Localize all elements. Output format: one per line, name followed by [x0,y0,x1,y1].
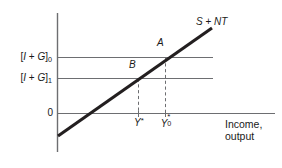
tick-superscript-ystar: * [141,116,144,125]
diagram-canvas [0,0,282,168]
curve-plus-sign: + [203,16,214,27]
tick-base-ystar: Y [134,117,141,128]
x-tick-label-ystar-0: Y*0 [155,117,177,129]
tick-base-ystar-0: Y [161,118,168,129]
plus-sign-1: + [26,72,37,83]
economics-diagram: [I + G]0 [I + G]1 0 A B S + NT Y* Y*0 In… [0,0,282,168]
curve-symbol-nt: NT [214,16,227,27]
point-label-b: B [129,59,136,70]
curve-symbol-s: S [196,16,203,27]
y-axis-label-level-0: [I + G]0 [2,51,52,62]
subscript-0: 0 [48,55,52,64]
x-tick-label-ystar: Y* [129,117,149,129]
x-axis-title: Income, output [225,118,262,143]
tick-supsub-ystar-0: *0 [167,117,171,127]
tick-subscript-ystar-0: 0 [167,120,171,128]
curve-label-s-plus-nt: S + NT [196,16,227,27]
origin-label: 0 [44,107,53,118]
point-label-a: A [157,37,164,48]
x-axis-title-line1: Income, [225,118,262,130]
subscript-1: 1 [48,76,52,85]
x-axis-title-line2: output [225,130,262,142]
plus-sign-0: + [26,51,37,62]
y-axis-label-level-1: [I + G]1 [2,72,52,83]
